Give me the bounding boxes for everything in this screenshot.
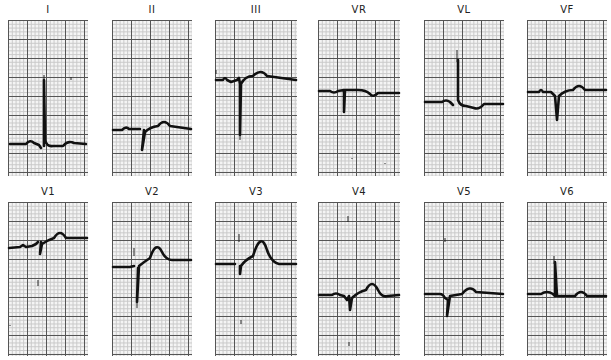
ecg-grid-strip <box>318 202 400 356</box>
ecg-grid-strip <box>527 20 607 176</box>
ecg-grid-strip <box>215 202 297 356</box>
ecg-trace <box>424 202 504 356</box>
lead-v6-panel: V6 <box>527 186 607 358</box>
ecg-grid-strip <box>527 202 607 356</box>
lead-i-panel: I <box>8 4 88 176</box>
lead-label: I <box>8 4 88 15</box>
lead-label: III <box>215 4 297 15</box>
ecg-trace <box>8 20 88 176</box>
lead-vr-panel: VR <box>318 4 400 176</box>
lead-label: VL <box>424 4 504 15</box>
lead-vl-panel: VL <box>424 4 504 176</box>
lead-v1-panel: V1 <box>8 186 88 358</box>
lead-v5-panel: V5 <box>424 186 504 358</box>
lead-label: V6 <box>527 186 607 197</box>
lead-v2-panel: V2 <box>112 186 192 358</box>
ecg-grid-strip <box>424 202 504 356</box>
ecg-grid-strip <box>112 202 192 356</box>
lead-v4-panel: V4 <box>318 186 400 358</box>
lead-v3-panel: V3 <box>215 186 297 358</box>
lead-label: II <box>112 4 192 15</box>
lead-label: V3 <box>215 186 297 197</box>
lead-label: VF <box>527 4 607 15</box>
ecg-trace <box>112 20 192 176</box>
ecg-grid-strip <box>318 20 400 176</box>
ecg-grid-strip <box>8 202 88 356</box>
ecg-trace <box>424 20 504 176</box>
lead-label: V1 <box>8 186 88 197</box>
ecg-trace <box>527 202 607 356</box>
ecg-trace <box>8 202 88 356</box>
ecg-trace <box>215 20 297 176</box>
lead-label: V2 <box>112 186 192 197</box>
lead-label: V5 <box>424 186 504 197</box>
ecg-trace <box>215 202 297 356</box>
ecg-grid-strip <box>424 20 504 176</box>
ecg-grid-strip <box>112 20 192 176</box>
lead-label: V4 <box>318 186 400 197</box>
ecg-trace <box>318 202 400 356</box>
lead-vf-panel: VF <box>527 4 607 176</box>
lead-iii-panel: III <box>215 4 297 176</box>
lead-label: VR <box>318 4 400 15</box>
ecg-grid-strip <box>215 20 297 176</box>
ecg-trace <box>527 20 607 176</box>
ecg-grid-strip <box>8 20 88 176</box>
lead-ii-panel: II <box>112 4 192 176</box>
ecg-trace <box>112 202 192 356</box>
ecg-trace <box>318 20 400 176</box>
